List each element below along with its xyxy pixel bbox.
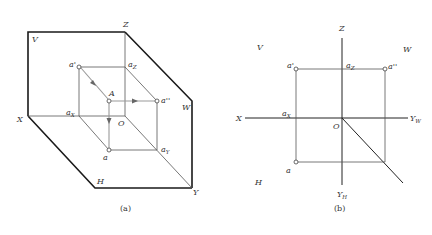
- label-ax: aX: [66, 108, 76, 118]
- label-a-double-prime: a'': [388, 62, 397, 71]
- three-view-projection-diagram: V Z W X O H Y A a' a'' a aX aZ aY (a) V …: [0, 0, 432, 235]
- label-v-plane: V: [32, 35, 39, 44]
- label-z: Z: [338, 24, 345, 33]
- diagonal-45-line: [342, 118, 403, 183]
- ax-to-a: [79, 116, 109, 150]
- y-axis: [125, 116, 192, 188]
- label-x: X: [16, 115, 23, 124]
- label-h-plane: H: [254, 178, 263, 187]
- point-a-double-prime: [155, 99, 159, 103]
- label-a-prime: a': [287, 61, 294, 70]
- label-ay: aY: [161, 145, 171, 155]
- label-a-double-prime: a'': [161, 96, 170, 105]
- point-a-prime: [294, 67, 298, 71]
- label-origin: O: [333, 122, 340, 131]
- arrow-icon: [90, 80, 96, 86]
- az-to-a-double-prime: [125, 67, 157, 101]
- v-plane-outline: [28, 32, 125, 116]
- figure-a: V Z W X O H Y A a' a'' a aX aZ aY (a): [16, 20, 199, 213]
- label-x: X: [235, 114, 242, 123]
- point-a: [294, 160, 298, 164]
- label-origin: O: [118, 119, 125, 128]
- label-a: a: [103, 153, 108, 162]
- point-a-prime: [77, 65, 81, 69]
- caption-b: (b): [334, 204, 345, 213]
- label-yh: YH: [337, 190, 347, 200]
- label-yw: YW: [410, 114, 422, 124]
- label-az: aZ: [128, 60, 137, 70]
- label-ax: aX: [282, 109, 292, 119]
- label-a-prime: a': [69, 60, 76, 69]
- figure-b: V W H Z X O YW YH a' a'' a aX aZ (b): [235, 24, 422, 213]
- label-z: Z: [122, 20, 129, 29]
- point-a: [107, 148, 111, 152]
- label-h-plane: H: [96, 177, 105, 186]
- label-az: aZ: [346, 61, 355, 71]
- label-a: a: [286, 166, 291, 175]
- label-y: Y: [193, 188, 199, 197]
- point-A: [107, 99, 111, 103]
- label-w-plane: W: [403, 45, 412, 54]
- point-a-double-prime: [383, 67, 387, 71]
- caption-a: (a): [120, 204, 131, 213]
- label-v-plane: V: [257, 43, 264, 52]
- arrow-icon: [132, 99, 138, 104]
- arrow-icon: [107, 118, 112, 124]
- label-w-plane: W: [182, 103, 191, 112]
- label-point-A: A: [108, 89, 115, 98]
